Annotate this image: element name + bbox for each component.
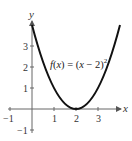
y-tick-label: 2 [23,62,28,73]
y-tick-label: 1 [23,83,28,94]
x-tick-label: 2 [74,113,79,124]
y-tick-label: 3 [23,41,28,52]
chart: −1 1 2 3 3 2 1 −1 x y f(x) = (x − 2)2 [0,0,132,141]
x-axis-label: x [122,102,128,114]
y-axis-label: y [28,8,34,20]
function-label: f(x) = (x − 2)2 [50,57,108,71]
y-tick-label: −1 [17,125,28,136]
x-tick-label: −1 [3,113,14,124]
x-tick-label: 3 [96,113,101,124]
x-tick-label: 1 [52,113,57,124]
